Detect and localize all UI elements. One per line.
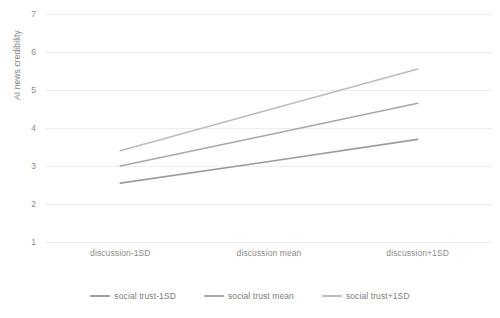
legend-item[interactable]: social trust mean	[204, 291, 294, 301]
series-line	[120, 69, 417, 151]
gridline	[46, 242, 492, 243]
x-tick-label: discussion-1SD	[90, 248, 150, 258]
y-tick-label: 1	[31, 238, 36, 247]
legend-label: social trust mean	[228, 291, 294, 301]
legend-item[interactable]: social trust-1SD	[90, 291, 176, 301]
legend-label: social trust+1SD	[346, 291, 410, 301]
y-tick-label: 6	[31, 48, 36, 57]
y-tick-label: 3	[31, 162, 36, 171]
y-tick-label: 5	[31, 86, 36, 95]
series-line	[120, 103, 417, 166]
x-tick-label: discussion mean	[237, 248, 302, 258]
chart-legend: social trust-1SDsocial trust meansocial …	[0, 288, 500, 304]
legend-item[interactable]: social trust+1SD	[322, 291, 410, 301]
x-axis-tick-labels: discussion-1SDdiscussion meandiscussion+…	[46, 248, 492, 262]
legend-label: social trust-1SD	[114, 291, 176, 301]
y-tick-label: 2	[31, 200, 36, 209]
series-lines	[46, 14, 492, 242]
line-chart: AI news credibility 1234567 discussion-1…	[0, 0, 500, 318]
legend-swatch-icon	[322, 295, 342, 297]
plot-area	[46, 14, 492, 242]
y-tick-label: 7	[31, 10, 36, 19]
y-tick-label: 4	[31, 124, 36, 133]
x-tick-label: discussion+1SD	[386, 248, 449, 258]
series-line	[120, 139, 417, 183]
legend-swatch-icon	[90, 295, 110, 297]
y-axis-tick-labels: 1234567	[0, 14, 42, 242]
legend-swatch-icon	[204, 295, 224, 297]
